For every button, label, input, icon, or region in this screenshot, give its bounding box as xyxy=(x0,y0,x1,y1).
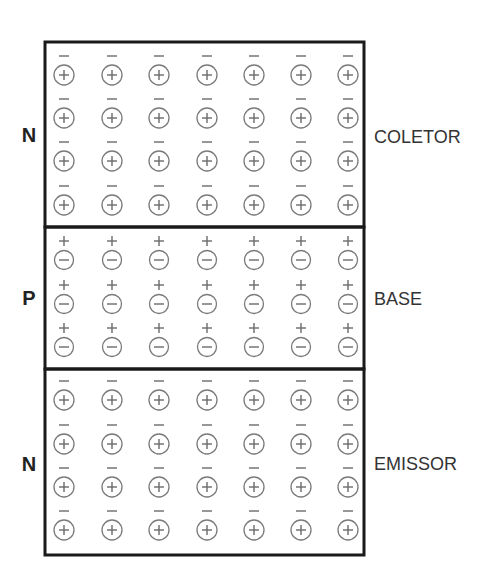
collector-lattice-cell xyxy=(338,56,358,85)
ion-plus-sign xyxy=(59,395,69,405)
base-border xyxy=(45,227,364,369)
ion-plus-sign xyxy=(202,200,212,210)
collector-lattice-cell xyxy=(102,186,122,215)
base-lattice-cell xyxy=(103,323,122,357)
ion-plus-sign xyxy=(202,70,212,80)
emitter-region xyxy=(45,369,364,555)
ion-plus-sign xyxy=(296,439,306,449)
base-lattice-cell xyxy=(339,280,358,314)
ion-plus-sign xyxy=(202,482,212,492)
hole-plus-sign xyxy=(296,323,306,333)
base-lattice-cell xyxy=(55,323,74,357)
emitter-lattice-cell xyxy=(291,425,311,454)
hole-plus-sign xyxy=(154,236,164,246)
collector-lattice-cell xyxy=(149,186,169,215)
emitter-lattice-cell xyxy=(197,425,217,454)
ion-plus-sign xyxy=(296,395,306,405)
base-lattice-cell xyxy=(198,280,217,314)
emitter-lattice-cell xyxy=(338,511,358,540)
collector-lattice-cell xyxy=(291,56,311,85)
collector-lattice-cell xyxy=(291,186,311,215)
emitter-lattice-cell xyxy=(338,425,358,454)
ion-plus-sign xyxy=(343,113,353,123)
hole-plus-sign xyxy=(107,280,117,290)
ion-plus-sign xyxy=(343,70,353,80)
ion-plus-sign xyxy=(296,200,306,210)
collector-name-label: COLETOR xyxy=(374,127,461,147)
hole-plus-sign xyxy=(343,280,353,290)
emitter-lattice-cell xyxy=(197,511,217,540)
emitter-lattice-cell xyxy=(149,381,169,410)
ion-plus-sign xyxy=(154,395,164,405)
collector-lattice-cell xyxy=(244,56,264,85)
collector-lattice-cell xyxy=(149,142,169,171)
emitter-type-label: N xyxy=(22,453,36,475)
ion-plus-sign xyxy=(202,395,212,405)
ion-plus-sign xyxy=(202,525,212,535)
ion-plus-sign xyxy=(154,439,164,449)
emitter-lattice-cell xyxy=(244,468,264,497)
ion-plus-sign xyxy=(202,113,212,123)
emitter-lattice-cell xyxy=(54,468,74,497)
ion-plus-sign xyxy=(107,70,117,80)
emitter-lattice-cell xyxy=(244,381,264,410)
ion-plus-sign xyxy=(249,156,259,166)
base-lattice-cell xyxy=(292,236,311,270)
base-lattice-cell xyxy=(150,236,169,270)
emitter-lattice-cell xyxy=(149,468,169,497)
ion-plus-sign xyxy=(107,525,117,535)
hole-plus-sign xyxy=(202,323,212,333)
ion-plus-sign xyxy=(154,200,164,210)
emitter-lattice-cell xyxy=(54,425,74,454)
collector-lattice-cell xyxy=(54,56,74,85)
ion-plus-sign xyxy=(202,439,212,449)
hole-plus-sign xyxy=(202,280,212,290)
emitter-lattice-cell xyxy=(197,468,217,497)
collector-lattice-cell xyxy=(54,142,74,171)
emitter-lattice-cell xyxy=(149,425,169,454)
collector-lattice-cell xyxy=(102,99,122,128)
base-lattice-cell xyxy=(292,323,311,357)
ion-plus-sign xyxy=(296,525,306,535)
base-type-label: P xyxy=(22,287,35,309)
hole-plus-sign xyxy=(107,236,117,246)
ion-plus-sign xyxy=(107,200,117,210)
hole-plus-sign xyxy=(249,236,259,246)
ion-plus-sign xyxy=(343,439,353,449)
base-lattice-cell xyxy=(103,236,122,270)
hole-plus-sign xyxy=(107,323,117,333)
collector-lattice-cell xyxy=(102,56,122,85)
ion-plus-sign xyxy=(296,113,306,123)
collector-lattice-cell xyxy=(149,56,169,85)
ion-plus-sign xyxy=(249,70,259,80)
base-lattice-cell xyxy=(245,323,264,357)
ion-plus-sign xyxy=(343,200,353,210)
ion-plus-sign xyxy=(202,156,212,166)
collector-lattice-cell xyxy=(149,99,169,128)
hole-plus-sign xyxy=(343,323,353,333)
hole-plus-sign xyxy=(59,280,69,290)
transistor-diagram: N COLETOR P BASE N EMISSOR xyxy=(0,0,489,572)
ion-plus-sign xyxy=(107,156,117,166)
collector-lattice-cell xyxy=(54,99,74,128)
base-lattice-cell xyxy=(150,280,169,314)
base-lattice-cell xyxy=(245,236,264,270)
emitter-lattice-cell xyxy=(244,511,264,540)
ion-plus-sign xyxy=(59,70,69,80)
hole-plus-sign xyxy=(249,280,259,290)
ion-plus-sign xyxy=(343,482,353,492)
base-lattice-cell xyxy=(150,323,169,357)
ion-plus-sign xyxy=(154,113,164,123)
collector-lattice-cell xyxy=(244,99,264,128)
base-lattice-cell xyxy=(339,323,358,357)
base-lattice-cell xyxy=(198,236,217,270)
hole-plus-sign xyxy=(249,323,259,333)
base-lattice-cell xyxy=(198,323,217,357)
ion-plus-sign xyxy=(59,439,69,449)
emitter-lattice-cell xyxy=(102,425,122,454)
emitter-lattice-cell xyxy=(291,381,311,410)
emitter-lattice-cell xyxy=(102,468,122,497)
emitter-lattice-cell xyxy=(291,468,311,497)
collector-lattice-cell xyxy=(291,99,311,128)
base-lattice-cell xyxy=(103,280,122,314)
